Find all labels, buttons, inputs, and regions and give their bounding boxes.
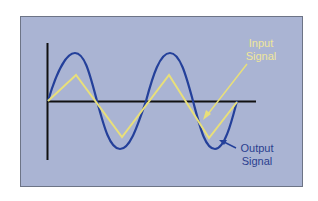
input-signal-label: Input Signal: [236, 37, 286, 63]
input-signal-curve: [48, 75, 237, 138]
output-label-line1: Output: [232, 142, 282, 155]
input-label-line2: Signal: [236, 50, 286, 63]
input-label-line1: Input: [236, 37, 286, 50]
output-signal-label: Output Signal: [232, 142, 282, 168]
signal-plot: [0, 0, 318, 201]
output-label-line2: Signal: [232, 155, 282, 168]
input-arrow: [208, 64, 247, 114]
